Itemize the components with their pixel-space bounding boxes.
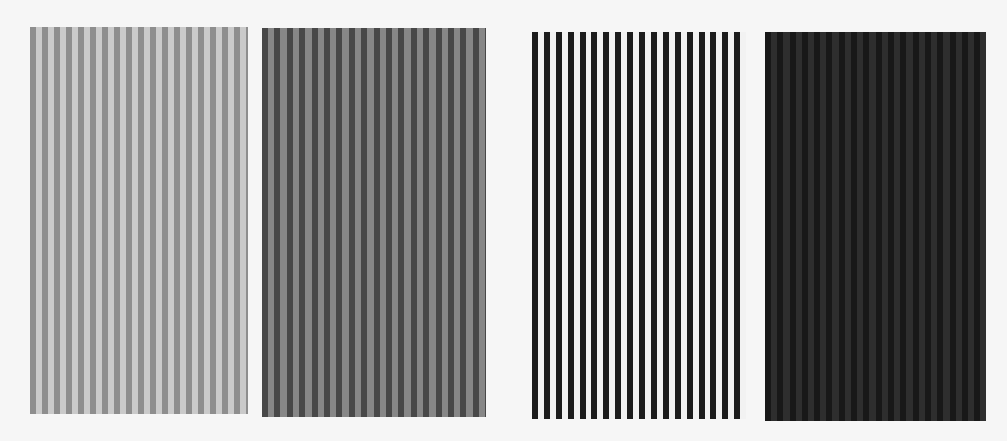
stripe-panel-4 [765,32,986,421]
stripe-panel-1 [30,27,248,414]
stripe-panel-3 [532,32,746,419]
stimulus-canvas [0,0,1007,441]
stripe-panel-2 [262,28,486,417]
